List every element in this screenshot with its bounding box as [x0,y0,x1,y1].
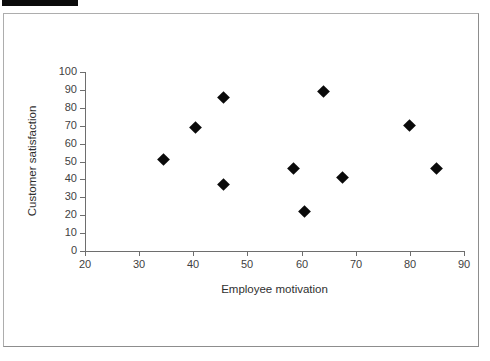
clipped-top-text-strip [0,0,490,9]
chart-frame [3,13,479,347]
selected-text-highlight [2,0,78,6]
